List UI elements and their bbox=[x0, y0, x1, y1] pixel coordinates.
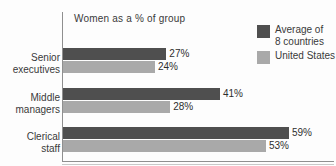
bar-value-middle-managers-average: 41% bbox=[223, 88, 243, 100]
legend-label-united-states: United States bbox=[275, 50, 335, 62]
legend-swatch-icon bbox=[257, 25, 270, 38]
x-axis-line bbox=[62, 161, 334, 162]
x-axis-baseline-secondary bbox=[62, 164, 334, 165]
category-label-line: managers bbox=[2, 104, 60, 116]
category-label-line: Clerical bbox=[2, 131, 60, 143]
legend-swatch-icon bbox=[257, 51, 270, 64]
bar-middle-managers-average bbox=[63, 88, 220, 100]
bar-clerical-staff-average bbox=[63, 127, 289, 139]
legend-label-average: Average of 8 countries bbox=[275, 24, 335, 47]
bar-clerical-staff-us bbox=[63, 140, 266, 152]
legend-item-united-states: United States bbox=[257, 50, 335, 62]
bar-value-clerical-staff-average: 59% bbox=[292, 127, 312, 139]
chart-title: Women as a % of group bbox=[74, 13, 185, 24]
legend: Average of 8 countries United States bbox=[257, 24, 335, 65]
bar-value-senior-executives-us: 24% bbox=[158, 61, 178, 73]
bar-senior-executives-us bbox=[63, 61, 155, 73]
category-label-line: executives bbox=[2, 64, 60, 76]
bar-value-senior-executives-average: 27% bbox=[169, 48, 189, 60]
bar-value-clerical-staff-us: 53% bbox=[269, 140, 289, 152]
legend-item-average-of-8-countries: Average of 8 countries bbox=[257, 24, 335, 47]
bar-chart: Women as a % of group Senior executives … bbox=[0, 0, 336, 166]
legend-label-line: 8 countries bbox=[275, 36, 335, 48]
category-label-line: Senior bbox=[2, 52, 60, 64]
category-label-middle-managers: Middle managers bbox=[2, 92, 60, 115]
category-label-line: Middle bbox=[2, 92, 60, 104]
category-label-clerical-staff: Clerical staff bbox=[2, 131, 60, 154]
legend-label-line: United States bbox=[275, 50, 335, 62]
bar-middle-managers-us bbox=[63, 101, 170, 113]
legend-label-line: Average of bbox=[275, 24, 335, 36]
bar-value-middle-managers-us: 28% bbox=[173, 101, 193, 113]
category-label-senior-executives: Senior executives bbox=[2, 52, 60, 75]
category-label-line: staff bbox=[2, 143, 60, 155]
bar-senior-executives-average bbox=[63, 48, 166, 60]
